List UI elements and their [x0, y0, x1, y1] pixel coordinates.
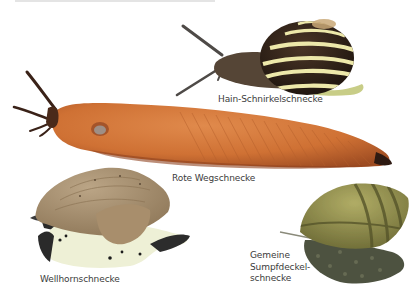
label-wellhornschnecke: Wellhornschnecke: [40, 274, 120, 286]
label-hain-schnirkelschnecke: Hain-Schnirkelschnecke: [218, 94, 323, 106]
label-rote-wegschnecke: Rote Wegschnecke: [172, 173, 255, 185]
hain-schnirkelschnecke-image: [177, 19, 364, 96]
label-gemeine-sumpfdeckelschnecke: Gemeine Sumpfdeckel- schnecke: [250, 250, 310, 285]
snail-illustrations: [0, 0, 420, 297]
snail-species-figure: Hain-Schnirkelschnecke Rote Wegschnecke …: [0, 0, 420, 297]
wellhornschnecke-image: [30, 168, 190, 268]
